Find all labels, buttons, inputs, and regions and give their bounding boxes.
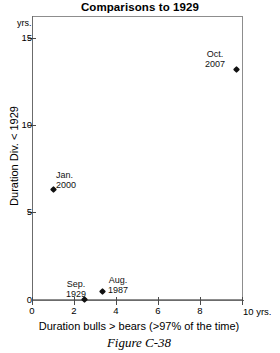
- y-tick-label-15: 15: [0, 33, 32, 43]
- data-point-label: Aug. 1987: [98, 275, 138, 295]
- x-axis-line: [32, 300, 244, 301]
- data-point-label: Oct. 2007: [196, 49, 234, 69]
- data-point-label-line2: 1929: [56, 289, 96, 299]
- x-tick-10: [242, 297, 243, 305]
- data-point-label-line1: Jan.: [56, 170, 96, 180]
- figure-container: Comparisons to 1929 15 10 5 0 yrs. 0 2 4…: [0, 0, 280, 353]
- x-tick-label-4: 4: [96, 306, 136, 316]
- x-tick-label-10: 10 yrs.: [243, 306, 272, 317]
- x-tick-label-8: 8: [180, 306, 220, 316]
- data-point-label-line2: 2000: [56, 180, 96, 190]
- figure-caption: Figure C-38: [0, 335, 278, 351]
- x-tick-8: [200, 297, 201, 305]
- x-axis-title: Duration bulls > bears (>97% of the time…: [0, 320, 278, 332]
- x-tick-label-2: 2: [54, 306, 94, 316]
- data-point-label-line1: Sep.: [56, 279, 96, 289]
- x-tick-0: [32, 297, 33, 305]
- data-point-label-line1: Oct.: [196, 49, 234, 59]
- x-tick-label-0: 0: [12, 306, 52, 316]
- data-point-label-line1: Aug.: [98, 275, 138, 285]
- data-point-label: Jan. 2000: [56, 170, 96, 190]
- x-tick-4: [116, 297, 117, 305]
- data-point-label-line2: 1987: [98, 285, 138, 295]
- x-tick-label-6: 6: [138, 306, 178, 316]
- y-axis-title: Duration Div. < 1929: [8, 56, 20, 256]
- y-axis-unit-label: yrs.: [17, 18, 32, 28]
- data-point-label: Sep. 1929: [56, 279, 96, 299]
- chart-title: Comparisons to 1929: [0, 1, 280, 13]
- x-tick-6: [158, 297, 159, 305]
- y-axis-line: [32, 16, 33, 301]
- y-tick-label-0: 0: [0, 295, 32, 305]
- data-point-label-line2: 2007: [196, 59, 234, 69]
